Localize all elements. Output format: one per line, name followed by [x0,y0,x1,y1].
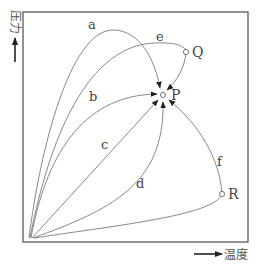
pressure-temperature-diagram: 压力 温度 P Q R a b c d e f [0,0,262,269]
y-axis-label: 压力 [8,10,22,34]
x-axis-label: 温度 [224,247,248,262]
curve-label-c: c [101,137,108,152]
curve-label-b: b [89,89,97,104]
point-label-q: Q [192,44,203,60]
curve-b [31,94,157,238]
point-p [160,92,165,97]
point-q [183,49,188,54]
x-axis-label-group: 温度 [194,247,248,262]
curve-label-d: d [136,176,144,191]
curve-label-a: a [88,17,96,32]
y-axis-label-group: 压力 [8,10,22,62]
curve-c [32,100,158,238]
point-label-r: R [228,186,239,202]
curve-f-r-to-p [169,100,222,194]
curve-f [34,194,222,238]
point-r [219,191,224,196]
curve-a [29,30,160,238]
curve-label-f: f [217,154,223,169]
point-label-p: P [171,87,180,103]
curve-e-q-to-p [167,52,186,90]
curve-label-e: e [156,29,164,44]
